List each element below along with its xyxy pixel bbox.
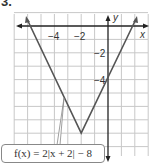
x-axis-label: x [139,29,146,40]
x-tick-label: −4 [48,31,60,42]
y-axis-up-arrow-icon [106,15,111,21]
coordinate-graph: −4 −2 −2 −4 y x [0,0,152,168]
y-axis-down-arrow-icon [106,156,111,162]
curve-right-arrow-icon [133,16,138,23]
callout-pointer [57,98,64,145]
x-axis-left-arrow-icon [16,24,22,29]
y-tick-label: −2 [94,48,106,59]
y-tick-label: −4 [94,75,106,86]
y-axis-label: y [112,12,119,23]
function-label: f(x) = 2|x + 2| − 8 [1,144,105,163]
x-tick-label: −2 [74,31,86,42]
